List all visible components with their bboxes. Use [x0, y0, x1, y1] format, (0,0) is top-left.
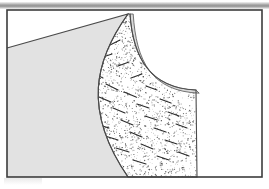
cross-section-svg [0, 0, 269, 189]
illustration-panel [0, 0, 269, 189]
scan-artifact [4, 178, 42, 185]
figure-root [0, 0, 269, 189]
